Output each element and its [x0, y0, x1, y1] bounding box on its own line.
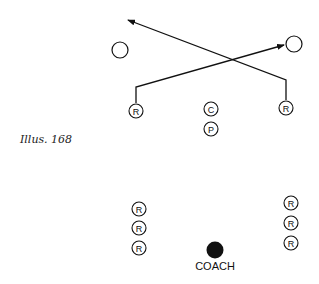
svg-text:R: R [136, 244, 143, 254]
svg-text:R: R [288, 219, 295, 229]
svg-text:P: P [208, 125, 214, 135]
svg-text:R: R [288, 199, 295, 209]
right-runner-route-arrow [128, 20, 286, 100]
coach-label: COACH [195, 260, 235, 272]
waiting-runner: R [284, 196, 298, 210]
player-right-runner: R [279, 101, 293, 115]
svg-text:R: R [136, 224, 143, 234]
svg-text:R: R [288, 239, 295, 249]
waiting-runner: R [132, 241, 146, 255]
svg-text:C: C [208, 105, 215, 115]
svg-text:R: R [136, 205, 143, 215]
coach-dot [207, 242, 224, 259]
player-left-runner: R [129, 104, 143, 118]
waiting-runner: R [284, 236, 298, 250]
svg-text:R: R [283, 104, 290, 114]
waiting-runner: R [284, 216, 298, 230]
coach-marker: COACH [195, 242, 235, 273]
left-target-circle [112, 42, 128, 58]
waiting-runner: R [132, 221, 146, 235]
left-runner-route-arrow [136, 45, 284, 103]
svg-text:R: R [133, 107, 140, 117]
right-runner-line: R R R [284, 196, 298, 250]
left-runner-line: R R R [132, 202, 146, 255]
player-pitcher: P [204, 122, 218, 136]
illustration-caption: Illus. 168 [20, 133, 72, 146]
waiting-runner: R [132, 202, 146, 216]
right-target-circle [286, 36, 302, 52]
player-center: C [204, 102, 218, 116]
